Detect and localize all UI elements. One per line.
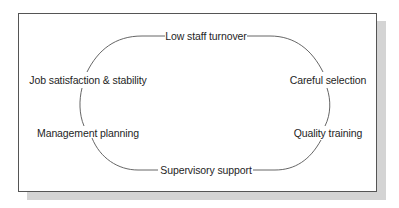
connector-top-to-right-upper	[247, 36, 323, 72]
node-careful-selection: Careful selection	[290, 74, 367, 86]
connector-left-lower-to-left-upper	[80, 88, 84, 126]
connector-bottom-to-left-lower	[92, 138, 158, 170]
node-job-satisfaction-stability: Job satisfaction & stability	[29, 74, 146, 86]
connector-left-upper-to-top	[87, 36, 165, 72]
connector-right-lower-to-bottom	[253, 140, 321, 170]
node-supervisory-support: Supervisory support	[160, 164, 251, 176]
connector-right-upper-to-right-lower	[325, 88, 330, 126]
node-low-staff-turnover: Low staff turnover	[165, 30, 246, 42]
node-quality-training: Quality training	[294, 127, 362, 139]
node-management-planning: Management planning	[37, 127, 139, 139]
